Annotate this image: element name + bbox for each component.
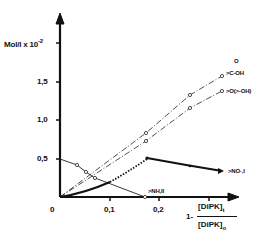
- y-tick-1-0: 1,0: [37, 115, 48, 124]
- y-axis-title: Mol/l x 10-2: [4, 38, 43, 49]
- series-no: [145, 156, 224, 174]
- y-tick-1-5: 1,5: [37, 77, 48, 86]
- series-nh: [60, 159, 147, 199]
- x-axis-denominator: [DiPK]o: [198, 220, 226, 231]
- x-axis-numerator: [DiPK]t: [198, 202, 224, 213]
- y-tick-0-5: 0,5: [37, 154, 48, 163]
- x-tick-0-1: 0,1: [104, 205, 115, 214]
- label-cooh: >C-OH: [226, 70, 244, 76]
- fraction-bar: [197, 216, 237, 217]
- label-nh: >NH,II: [148, 188, 164, 194]
- label-no: >NO·,I: [228, 168, 245, 174]
- label-oh: >O(>-OH): [226, 88, 251, 94]
- series-no-rise: [60, 159, 147, 197]
- series-oh: [60, 89, 224, 197]
- axes: [56, 13, 239, 201]
- x-tick-0-2: 0,2: [153, 205, 164, 214]
- series-cooh: [60, 74, 224, 197]
- label-cooh-oxygen: O: [234, 58, 238, 64]
- x-axis-prefix: 1-: [186, 212, 193, 221]
- origin-label: 0: [50, 205, 54, 214]
